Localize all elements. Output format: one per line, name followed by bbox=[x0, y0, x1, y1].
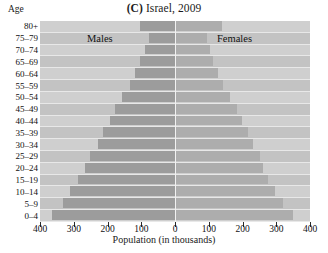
y-tick-label: 25–29 bbox=[0, 152, 38, 161]
y-tick-label: 45–49 bbox=[0, 105, 38, 114]
x-axis-title: Population (in thousands) bbox=[0, 234, 328, 245]
bar-female bbox=[175, 80, 223, 90]
bar-female bbox=[175, 186, 275, 196]
bar-female bbox=[175, 56, 213, 66]
y-tick-label: 30–34 bbox=[0, 141, 38, 150]
bar-male bbox=[78, 175, 175, 185]
bar-male bbox=[115, 104, 175, 114]
bar-female bbox=[175, 92, 230, 102]
chart-figure: (C) Israel, 2009 Age 80+75–7970–7465–696… bbox=[0, 0, 328, 253]
bar-female bbox=[175, 45, 210, 55]
chart-title-text: Israel, 2009 bbox=[146, 2, 202, 14]
x-tick-label: 400 bbox=[290, 224, 328, 234]
center-axis-line bbox=[175, 21, 176, 222]
bar-female bbox=[175, 116, 242, 126]
bar-male bbox=[98, 139, 175, 149]
bar-male bbox=[103, 127, 175, 137]
bar-male bbox=[140, 56, 175, 66]
y-tick-label: 0–4 bbox=[0, 212, 38, 221]
bar-female bbox=[175, 151, 260, 161]
bar-male bbox=[85, 163, 175, 173]
plot-area: Males Females bbox=[40, 21, 310, 222]
series-label-males: Males bbox=[87, 33, 113, 44]
bar-male bbox=[149, 33, 175, 43]
bar-male bbox=[110, 116, 175, 126]
series-label-females: Females bbox=[217, 33, 252, 44]
bar-female bbox=[175, 104, 237, 114]
bar-male bbox=[52, 210, 175, 220]
bar-female bbox=[175, 127, 248, 137]
y-tick-label: 40–44 bbox=[0, 117, 38, 126]
y-tick-label: 50–54 bbox=[0, 93, 38, 102]
bar-male bbox=[140, 21, 175, 31]
panel-letter: (C) bbox=[127, 2, 143, 14]
bar-male bbox=[70, 186, 175, 196]
y-tick-label: 75–79 bbox=[0, 34, 38, 43]
y-tick-label: 65–69 bbox=[0, 58, 38, 67]
bar-female bbox=[175, 210, 293, 220]
bar-male bbox=[145, 45, 175, 55]
y-tick-label: 60–64 bbox=[0, 70, 38, 79]
bar-male bbox=[122, 92, 175, 102]
chart-title: (C) Israel, 2009 bbox=[0, 2, 328, 14]
bar-male bbox=[135, 68, 175, 78]
y-tick-label: 35–39 bbox=[0, 129, 38, 138]
bar-female bbox=[175, 68, 218, 78]
bar-female bbox=[175, 21, 222, 31]
y-tick-label: 5–9 bbox=[0, 200, 38, 209]
y-axis-title: Age bbox=[8, 4, 24, 14]
y-tick-label: 15–19 bbox=[0, 176, 38, 185]
bar-female bbox=[175, 175, 268, 185]
bar-female bbox=[175, 33, 207, 43]
y-tick-label: 10–14 bbox=[0, 188, 38, 197]
bar-female bbox=[175, 139, 253, 149]
y-axis-tick-labels: 80+75–7970–7465–6960–6455–5950–5445–4940… bbox=[0, 21, 38, 222]
y-tick-label: 55–59 bbox=[0, 82, 38, 91]
y-tick-label: 20–24 bbox=[0, 164, 38, 173]
bar-female bbox=[175, 198, 283, 208]
bar-male bbox=[130, 80, 175, 90]
bar-male bbox=[63, 198, 175, 208]
bar-female bbox=[175, 163, 263, 173]
y-tick-label: 80+ bbox=[0, 22, 38, 31]
y-tick-label: 70–74 bbox=[0, 46, 38, 55]
bar-male bbox=[90, 151, 175, 161]
